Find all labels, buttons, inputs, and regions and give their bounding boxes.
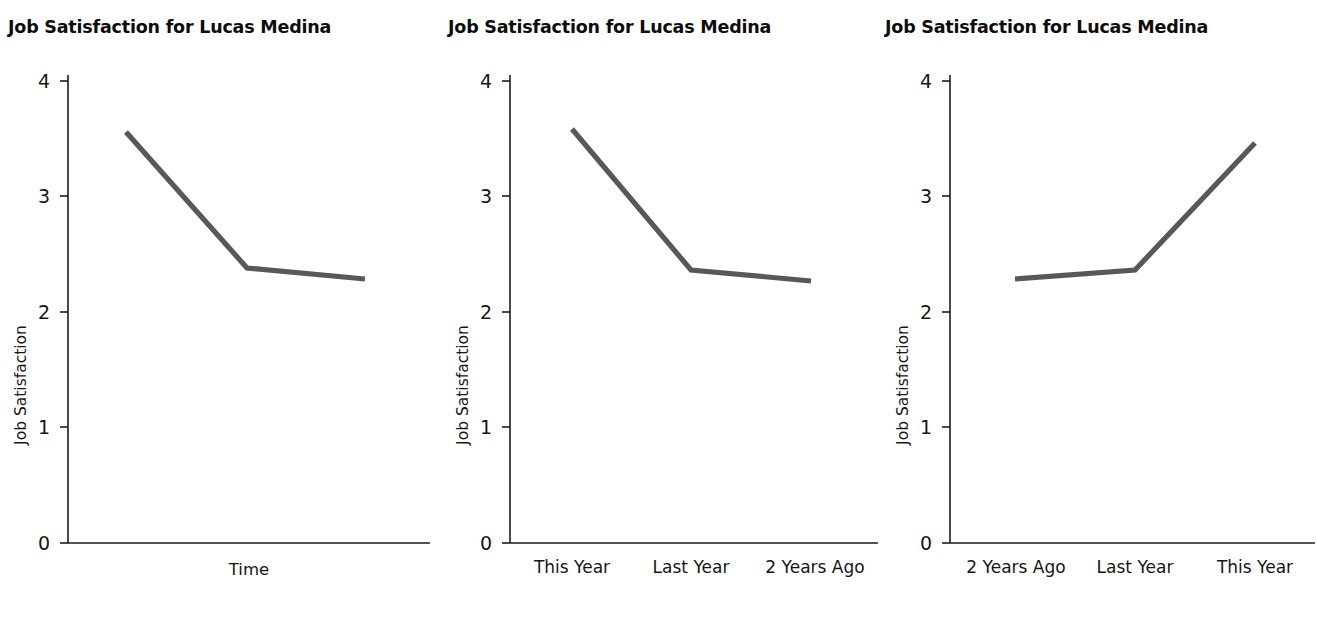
x-axis-title-1: Time	[228, 560, 269, 579]
y-tick-label-4-3: 4	[920, 70, 932, 92]
y-axis-title-2: Job Satisfaction	[454, 325, 472, 446]
x-tick-label-1-2: Last Year	[653, 557, 730, 577]
chart-panel-2: Job Satisfaction for Lucas Medina 4 3 2 …	[440, 0, 880, 633]
y-tick-label-2-3: 2	[920, 301, 932, 323]
y-tick-label-0-3: 0	[920, 532, 932, 554]
x-tick-label-0-2: This Year	[533, 557, 610, 577]
data-series-line-1	[126, 132, 365, 279]
y-tick-label-1-1: 1	[38, 416, 50, 438]
chart-panel-1: Job Satisfaction for Lucas Medina 4 3 2 …	[0, 0, 440, 633]
y-tick-label-3-1: 3	[38, 185, 50, 207]
chart-panel-3: Job Satisfaction for Lucas Medina 4 3 2 …	[877, 0, 1317, 633]
data-series-line-2	[572, 129, 811, 281]
y-tick-label-3-2: 3	[480, 185, 492, 207]
x-tick-label-1-3: Last Year	[1097, 557, 1174, 577]
y-tick-label-0-1: 0	[38, 532, 50, 554]
chart-plot-1: 4 3 2 1 0 Job Satisfaction Time	[0, 0, 440, 633]
x-tick-label-2-3: This Year	[1216, 557, 1293, 577]
figure-canvas: Job Satisfaction for Lucas Medina 4 3 2 …	[0, 0, 1317, 633]
y-tick-label-2-2: 2	[480, 301, 492, 323]
y-tick-label-0-2: 0	[480, 532, 492, 554]
y-tick-label-1-3: 1	[920, 416, 932, 438]
data-series-line-3	[1015, 143, 1255, 279]
y-axis-title-1: Job Satisfaction	[12, 325, 30, 446]
y-tick-label-4-1: 4	[38, 70, 50, 92]
y-axis-title-3: Job Satisfaction	[894, 325, 912, 446]
chart-plot-3: 4 3 2 1 0 Job Satisfaction 2 Years Ago L…	[877, 0, 1317, 633]
y-tick-label-4-2: 4	[480, 70, 492, 92]
x-tick-label-2-2: 2 Years Ago	[765, 557, 864, 577]
x-tick-label-0-3: 2 Years Ago	[966, 557, 1065, 577]
y-tick-label-3-3: 3	[920, 185, 932, 207]
chart-plot-2: 4 3 2 1 0 Job Satisfaction This Year Las…	[440, 0, 880, 633]
y-tick-label-2-1: 2	[38, 301, 50, 323]
y-tick-label-1-2: 1	[480, 416, 492, 438]
